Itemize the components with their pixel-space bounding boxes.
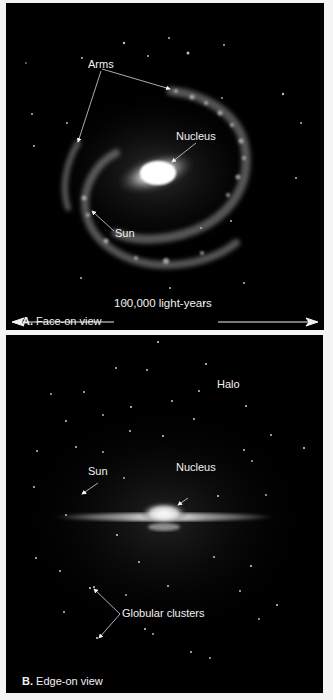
spiral-galaxy-illustration xyxy=(6,3,324,330)
edge-on-view-panel: Halo Sun Nucleus Globular clusters B. Ed… xyxy=(6,335,323,693)
caption-letter-a: A. xyxy=(22,315,33,327)
sun-label: Sun xyxy=(115,228,135,239)
sun-label: Sun xyxy=(88,466,108,477)
globular-clusters-label: Globular clusters xyxy=(122,608,205,619)
edge-on-galaxy-illustration xyxy=(6,335,323,693)
face-on-view-panel: Arms Nucleus Sun 100,000 light-years A. … xyxy=(6,3,324,330)
halo-label: Halo xyxy=(217,379,240,390)
caption-text-a: Face-on view xyxy=(36,315,101,327)
face-on-caption: A. Face-on view xyxy=(22,316,101,327)
caption-text-b: Edge-on view xyxy=(36,675,103,687)
edge-on-caption: B. Edge-on view xyxy=(22,676,103,687)
nucleus-label: Nucleus xyxy=(176,131,216,142)
arms-label: Arms xyxy=(88,59,114,70)
scale-bar-label: 100,000 light-years xyxy=(114,298,212,310)
caption-letter-b: B. xyxy=(22,675,33,687)
nucleus-label: Nucleus xyxy=(176,462,216,473)
